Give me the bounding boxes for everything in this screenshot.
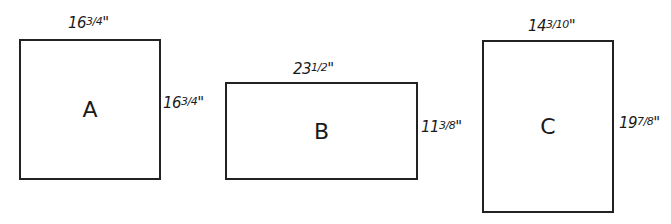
rect-a-height-whole: 16 — [163, 94, 181, 112]
rect-b-height-label: 113/8" — [421, 118, 462, 136]
rect-b-height-frac: 3/8 — [439, 119, 455, 132]
rect-c-width-whole: 14 — [528, 17, 546, 35]
rect-c: C — [482, 40, 614, 213]
inch-mark: " — [102, 14, 108, 32]
rect-a-width-whole: 16 — [68, 14, 86, 32]
rect-a-height-frac: 3/4 — [181, 95, 197, 108]
inch-mark: " — [569, 17, 575, 35]
inch-mark: " — [653, 114, 659, 132]
rect-b-width-frac: 1/2 — [311, 61, 327, 74]
rect-a: A — [19, 39, 161, 180]
rect-a-height-label: 163/4" — [163, 94, 204, 112]
rect-c-width-label: 143/10" — [528, 17, 575, 35]
rect-b-height-whole: 11 — [421, 118, 439, 136]
inch-mark: " — [197, 94, 203, 112]
rect-c-height-frac: 7/8 — [637, 115, 653, 128]
rect-b-width-label: 231/2" — [293, 60, 334, 78]
inch-mark: " — [455, 118, 461, 136]
rect-a-label: A — [82, 97, 97, 122]
rect-a-width-label: 163/4" — [68, 14, 109, 32]
inch-mark: " — [327, 60, 333, 78]
rect-c-height-label: 197/8" — [619, 114, 660, 132]
rect-c-label: C — [540, 114, 555, 139]
rect-b-label: B — [314, 119, 329, 144]
rect-b-width-whole: 23 — [293, 60, 311, 78]
rect-a-width-frac: 3/4 — [86, 15, 102, 28]
rect-c-height-whole: 19 — [619, 114, 637, 132]
rect-b: B — [225, 82, 418, 180]
rect-c-width-frac: 3/10 — [546, 18, 569, 31]
